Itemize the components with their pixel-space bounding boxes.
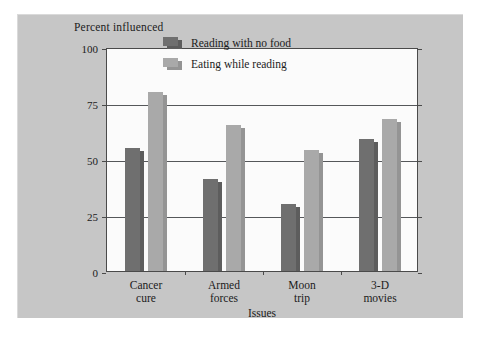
bar <box>359 139 378 271</box>
x-axis-tick-label: Cancercure <box>130 279 163 305</box>
bar <box>382 119 401 271</box>
x-axis-tick <box>263 271 264 275</box>
bar <box>148 92 167 271</box>
y-axis-tick <box>418 273 422 274</box>
legend-item: Reading with no food <box>163 34 291 52</box>
bar <box>226 125 245 271</box>
plot-area: Issues 0255075100CancercureArmedforcesMo… <box>106 48 418 272</box>
x-axis-tick-label: Armedforces <box>208 279 240 305</box>
legend-swatch-reading-with-no-food <box>163 37 182 49</box>
y-axis-tick <box>102 273 106 274</box>
legend-swatch-eating-while-reading <box>163 58 182 70</box>
legend-label: Reading with no food <box>191 37 291 49</box>
x-axis-tick <box>341 271 342 275</box>
y-axis-tick <box>418 105 422 106</box>
x-axis-tick-label: Moontrip <box>288 279 315 305</box>
y-axis-tick <box>418 217 422 218</box>
legend-item: Eating while reading <box>163 55 291 73</box>
y-axis-tick-label: 75 <box>87 99 98 111</box>
y-axis-tick <box>102 161 106 162</box>
bar <box>203 179 222 271</box>
x-axis-tick-label: 3-Dmovies <box>363 279 396 305</box>
y-axis-title: Percent influenced <box>74 21 164 33</box>
y-axis-tick <box>102 49 106 50</box>
bar <box>125 148 144 271</box>
y-axis-tick <box>418 161 422 162</box>
y-axis-tick <box>102 105 106 106</box>
legend-label: Eating while reading <box>191 58 287 70</box>
y-axis-tick <box>102 217 106 218</box>
y-axis-tick-label: 100 <box>82 43 99 55</box>
x-axis-tick <box>185 271 186 275</box>
bar <box>304 150 323 271</box>
chart-legend: Reading with no food Eating while readin… <box>163 34 291 76</box>
y-axis-tick <box>418 49 422 50</box>
y-axis-tick-label: 25 <box>87 211 98 223</box>
x-axis-title: Issues <box>107 307 417 319</box>
y-axis-tick-label: 50 <box>87 155 98 167</box>
bar <box>281 204 300 271</box>
chart-figure: Percent influenced Issues 0255075100Canc… <box>17 14 463 318</box>
y-axis-tick-label: 0 <box>93 267 99 279</box>
